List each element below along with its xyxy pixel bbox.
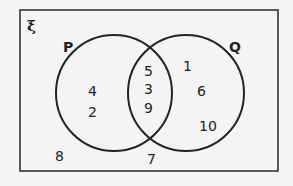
element-p-only: 4 — [88, 83, 97, 99]
venn-diagram: ξ P Q 4 2 5 3 9 1 6 10 8 7 — [0, 0, 293, 186]
element-intersection: 5 — [144, 63, 153, 79]
set-p-circle — [56, 35, 172, 151]
element-intersection: 9 — [144, 100, 153, 116]
element-outside: 8 — [55, 148, 64, 164]
element-outside: 7 — [147, 151, 156, 167]
universal-set-symbol: ξ — [27, 17, 36, 35]
element-q-only: 1 — [183, 58, 192, 74]
element-p-only: 2 — [88, 104, 97, 120]
element-q-only: 6 — [197, 83, 206, 99]
element-q-only: 10 — [199, 118, 217, 134]
set-q-label: Q — [229, 39, 241, 55]
set-p-label: P — [63, 39, 73, 55]
element-intersection: 3 — [144, 81, 153, 97]
